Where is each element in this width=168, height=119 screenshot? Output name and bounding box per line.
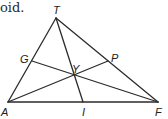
- side-TA: [8, 18, 56, 102]
- vertex-label-T: T: [53, 4, 61, 16]
- side-TF: [56, 18, 158, 102]
- point-label-I: I: [82, 106, 85, 118]
- median-TI: [56, 18, 83, 102]
- vertex-label-A: A: [0, 106, 8, 118]
- point-label-P: P: [111, 52, 119, 64]
- vertex-label-F: F: [155, 106, 163, 118]
- point-label-G: G: [20, 53, 29, 65]
- median-GF: [32, 61, 158, 102]
- centroid-triangle-diagram: T A F G P I Y: [0, 0, 168, 119]
- centroid-label-Y: Y: [72, 63, 80, 75]
